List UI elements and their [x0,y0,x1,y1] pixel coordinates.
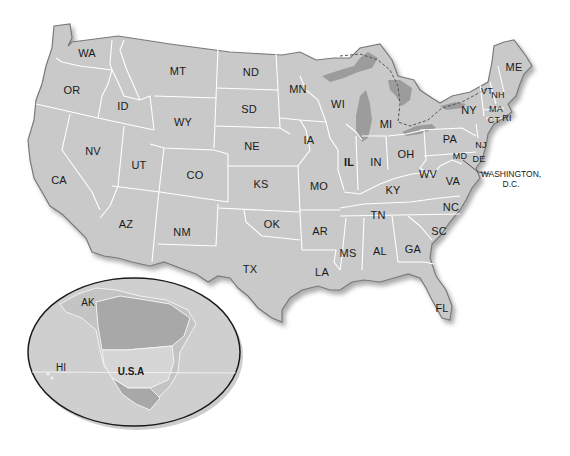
state-label-or: OR [64,84,81,96]
state-label-ma: MA [489,104,503,114]
state-label-in: IN [370,156,381,168]
state-label-nm: NM [173,226,191,238]
state-label-al: AL [373,245,387,257]
state-label-nh: NH [491,90,504,100]
state-label-mi: MI [380,118,393,130]
state-label-nc: NC [443,201,459,213]
state-label-ia: IA [304,134,315,146]
state-label-tx: TX [243,263,257,275]
state-label-co: CO [187,169,204,181]
state-label-md: MD [453,151,467,161]
state-label-pa: PA [443,133,457,145]
state-label-ms: MS [340,247,357,259]
capital-label: WASHINGTON, D.C. [481,169,541,189]
state-label-az: AZ [119,218,133,230]
state-label-nd: ND [243,66,259,78]
state-label-sc: SC [431,225,447,237]
state-label-ks: KS [253,178,268,190]
state-label-tn: TN [370,209,385,221]
state-label-nv: NV [85,145,101,157]
inset-label-hi: HI [56,362,66,373]
state-label-ca: CA [51,174,67,186]
state-label-mt: MT [170,65,186,77]
us-map [0,0,570,456]
state-label-ok: OK [264,218,280,230]
state-label-wi: WI [331,98,345,110]
state-label-il: IL [344,156,354,168]
state-label-ny: NY [461,104,477,116]
state-label-ct: CT [488,115,500,125]
state-label-me: ME [506,61,523,73]
state-label-ri: RI [502,113,511,123]
state-label-fl: FL [435,302,448,314]
state-label-wy: WY [174,116,192,128]
state-label-ky: KY [385,184,400,196]
state-label-sd: SD [241,103,257,115]
state-label-wv: WV [419,168,437,180]
inset-label-usa: U.S.A [118,366,145,377]
state-label-oh: OH [398,148,415,160]
state-label-mn: MN [289,83,307,95]
inset-label-ak: AK [81,297,94,308]
state-label-ne: NE [244,140,260,152]
state-label-de: DE [473,154,486,164]
state-label-ar: AR [312,225,328,237]
state-label-id: ID [117,100,128,112]
capital-label-line2: D.C. [481,179,541,189]
state-label-ga: GA [405,243,421,255]
state-label-nj: NJ [475,140,486,150]
state-label-ut: UT [131,159,146,171]
state-label-la: LA [315,266,329,278]
state-label-va: VA [446,175,460,187]
capital-label-line1: WASHINGTON, [481,169,541,179]
state-label-mo: MO [310,180,328,192]
inset-globe [28,278,243,430]
state-label-wa: WA [78,47,96,59]
